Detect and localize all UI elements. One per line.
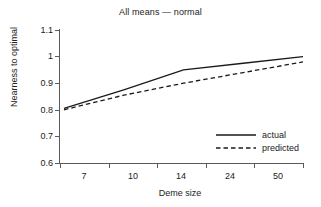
legend-label-actual: actual (262, 130, 286, 140)
series-line-actual (64, 57, 303, 109)
solid-line-icon (216, 131, 256, 139)
series-line-predicted (64, 62, 303, 110)
legend-item-actual: actual (216, 128, 299, 141)
series-plot (0, 0, 321, 207)
legend-label-predicted: predicted (262, 143, 299, 153)
dashed-line-icon (216, 144, 256, 152)
chart-legend: actual predicted (216, 128, 299, 154)
legend-item-predicted: predicted (216, 141, 299, 154)
chart-figure: All means — normal Nearness to optimal 1… (0, 0, 321, 207)
